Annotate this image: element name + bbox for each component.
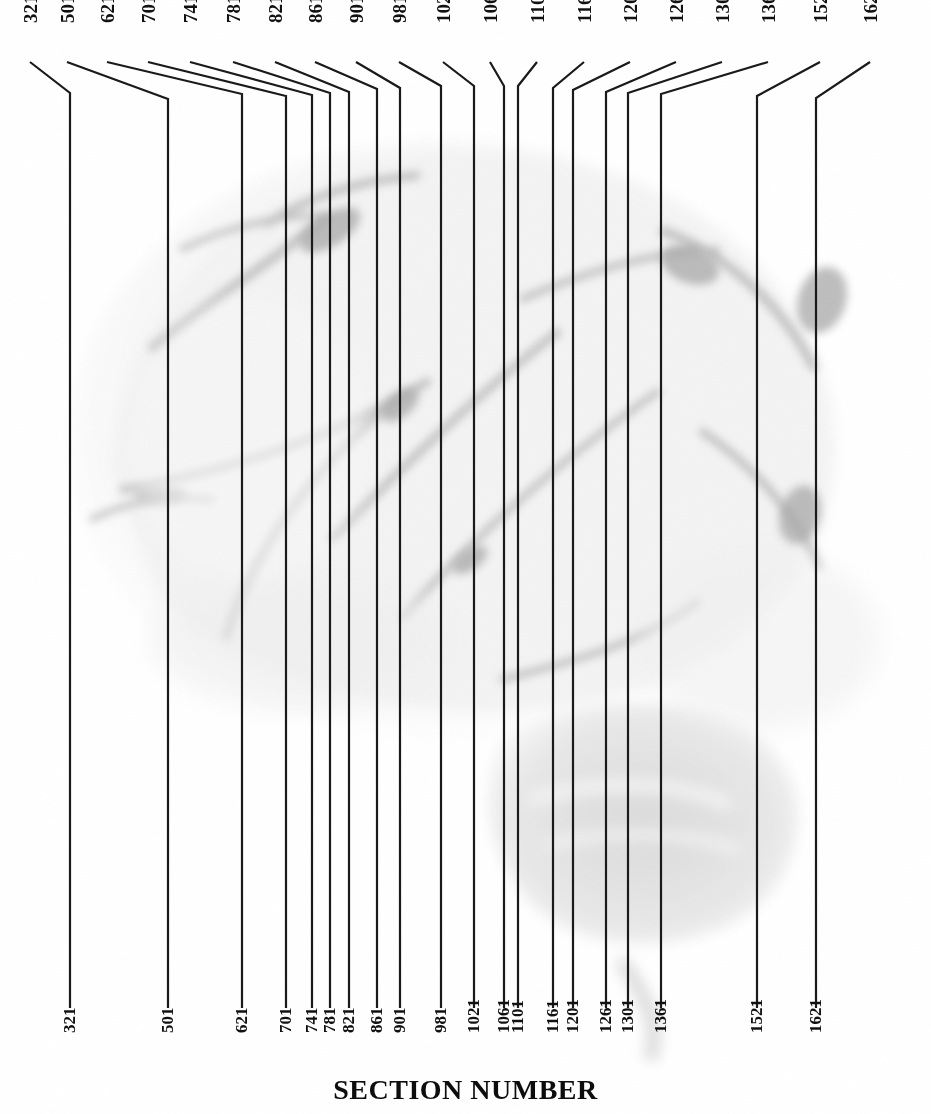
section-line (518, 62, 537, 1008)
bottom-section-label: 1201 (564, 999, 581, 1033)
section-line (573, 62, 630, 1008)
bottom-section-label: 321 (61, 1008, 78, 1034)
section-line (757, 62, 820, 1008)
section-line (315, 62, 377, 1008)
bottom-section-label: 1161 (544, 1000, 561, 1033)
section-line (107, 62, 242, 1008)
bottom-section-label: 901 (391, 1008, 408, 1034)
bottom-section-label: 1521 (748, 999, 765, 1033)
top-section-label: 1621 (861, 0, 880, 23)
top-section-label: 821 (266, 0, 285, 23)
top-section-label: 1021 (434, 0, 453, 23)
bottom-section-label: 1621 (807, 999, 824, 1033)
top-section-label: 701 (139, 0, 158, 23)
bottom-section-label: 1021 (465, 999, 482, 1033)
top-section-label: 1101 (528, 0, 547, 23)
top-section-label: 1361 (759, 0, 778, 23)
bottom-section-label: 1261 (597, 999, 614, 1033)
bottom-section-label: 821 (340, 1008, 357, 1034)
top-section-label: 1161 (575, 0, 594, 23)
bottom-section-label: 501 (159, 1008, 176, 1034)
bottom-section-label: 1361 (652, 999, 669, 1033)
section-line (490, 62, 504, 1008)
top-section-label: 501 (58, 0, 77, 23)
section-line (816, 62, 870, 1008)
top-section-label: 1261 (667, 0, 686, 23)
bottom-section-label: 701 (277, 1008, 294, 1034)
bottom-section-label: 1101 (509, 1000, 526, 1033)
top-section-label: 901 (347, 0, 366, 23)
section-line (628, 62, 722, 1008)
top-section-label: 1301 (713, 0, 732, 23)
top-section-label: 861 (306, 0, 325, 23)
top-section-label: 741 (181, 0, 200, 23)
top-section-label: 621 (98, 0, 117, 23)
top-section-label: 781 (224, 0, 243, 23)
section-line (399, 62, 441, 1008)
section-number-figure: 3215016217017417818218619019811021106111… (0, 0, 931, 1114)
section-line (190, 62, 312, 1008)
top-section-label: 981 (390, 0, 409, 23)
bottom-section-label: 741 (303, 1008, 320, 1034)
bottom-section-label: 781 (321, 1008, 338, 1034)
section-line (443, 62, 474, 1008)
bottom-section-label: 621 (233, 1008, 250, 1034)
section-line (30, 62, 70, 1008)
section-line (67, 62, 168, 1008)
bottom-section-label: 861 (368, 1008, 385, 1034)
section-line (606, 62, 676, 1008)
section-line (553, 62, 584, 1008)
section-line (661, 62, 768, 1008)
section-line (233, 62, 330, 1008)
bottom-section-label: 1301 (619, 999, 636, 1033)
top-section-label: 321 (21, 0, 40, 23)
top-section-label: 1061 (481, 0, 500, 23)
section-lines (0, 0, 931, 1114)
top-section-label: 1521 (811, 0, 830, 23)
bottom-section-label: 981 (432, 1008, 449, 1034)
top-section-label: 1201 (621, 0, 640, 23)
axis-title: SECTION NUMBER (0, 1074, 931, 1106)
